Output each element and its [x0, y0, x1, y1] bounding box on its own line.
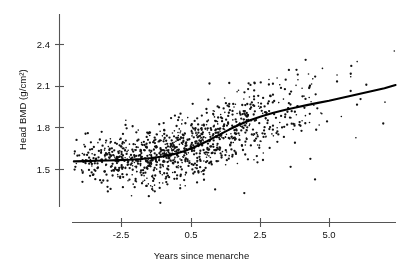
x-axis-title: Years since menarche	[0, 250, 403, 261]
chart-figure: Years since menarche Head BMD (g/cm²) -2…	[0, 0, 403, 277]
x-tick-label-4: 5.0	[312, 229, 346, 240]
y-tick-label-4: 2.4	[20, 39, 50, 50]
y-tick-label-1: 1.5	[20, 164, 50, 175]
x-tick-label-2: 0.5	[174, 229, 208, 240]
y-axis-title: Head BMD (g/cm²)	[17, 45, 28, 175]
y-tick-label-3: 2.1	[20, 80, 50, 91]
x-tick-label-1: -2.5	[104, 229, 138, 240]
y-tick-label-2: 1.8	[20, 122, 50, 133]
x-tick-label-3: 2.5	[243, 229, 277, 240]
